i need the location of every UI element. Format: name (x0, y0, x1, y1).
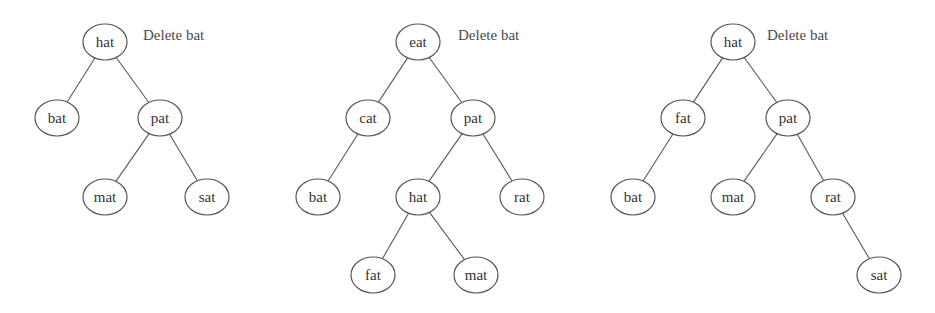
tree-node-mat: mat (454, 257, 498, 293)
node-label: bat (309, 189, 328, 205)
node-label: eat (409, 34, 427, 50)
node-label: mat (465, 267, 488, 283)
node-label: pat (464, 110, 483, 126)
tree-node-bat: bat (35, 100, 79, 136)
tree-node-mat: mat (711, 179, 755, 215)
tree-node-hat: hat (711, 24, 755, 60)
tree-edge (797, 134, 823, 180)
node-label: cat (359, 110, 377, 126)
tree-edge (170, 134, 198, 181)
node-label: fat (675, 110, 692, 126)
delete-caption: Delete bat (458, 27, 520, 43)
tree-node-bat: bat (611, 179, 655, 215)
tree-edge (643, 134, 673, 181)
tree-edge (483, 134, 512, 181)
delete-caption: Delete bat (143, 27, 205, 43)
node-label: mat (722, 189, 745, 205)
tree-edge (429, 57, 462, 102)
tree-node-hat: hat (396, 179, 440, 215)
tree-edge (693, 58, 722, 102)
node-label: hat (409, 189, 428, 205)
tree-node-sat: sat (857, 257, 901, 293)
tree-node-rat: rat (811, 179, 855, 215)
tree-node-rat: rat (500, 179, 544, 215)
tree-node-pat: pat (138, 100, 182, 136)
tree-node-pat: pat (766, 100, 810, 136)
tree-edge (328, 134, 358, 181)
tree-edge (116, 134, 149, 182)
tree-node-fat: fat (351, 257, 395, 293)
delete-caption: Delete bat (767, 27, 829, 43)
tree-node-fat: fat (661, 100, 705, 136)
node-label: sat (199, 189, 216, 205)
node-label: hat (96, 34, 115, 50)
tree-edge (116, 57, 149, 102)
node-label: mat (94, 189, 117, 205)
node-label: rat (514, 189, 531, 205)
tree-node-mat: mat (83, 179, 127, 215)
node-label: fat (365, 267, 382, 283)
tree-edge (744, 57, 777, 102)
tree-node-pat: pat (451, 100, 495, 136)
tree-edge (429, 212, 464, 259)
tree-edge (382, 213, 408, 258)
tree-edge (843, 213, 870, 259)
tree-node-hat: hat (83, 24, 127, 60)
node-label: pat (151, 110, 170, 126)
node-label: pat (779, 110, 798, 126)
tree-2: eatcatpatbathatratfatmatDelete bat (296, 24, 544, 293)
tree-edge (744, 134, 777, 182)
binary-search-tree-diagrams: hatbatpatmatsatDelete bateatcatpatbathat… (0, 0, 935, 313)
node-label: hat (724, 34, 743, 50)
tree-node-bat: bat (296, 179, 340, 215)
tree-node-sat: sat (185, 179, 229, 215)
tree-node-cat: cat (346, 100, 390, 136)
node-label: bat (48, 110, 67, 126)
node-label: rat (825, 189, 842, 205)
tree-3: hatfatpatbatmatratsatDelete bat (611, 24, 901, 293)
node-label: bat (624, 189, 643, 205)
tree-1: hatbatpatmatsatDelete bat (35, 24, 229, 215)
node-label: sat (871, 267, 888, 283)
tree-edge (429, 134, 462, 182)
tree-edge (67, 58, 95, 102)
tree-edge (378, 58, 407, 102)
tree-node-eat: eat (396, 24, 440, 60)
